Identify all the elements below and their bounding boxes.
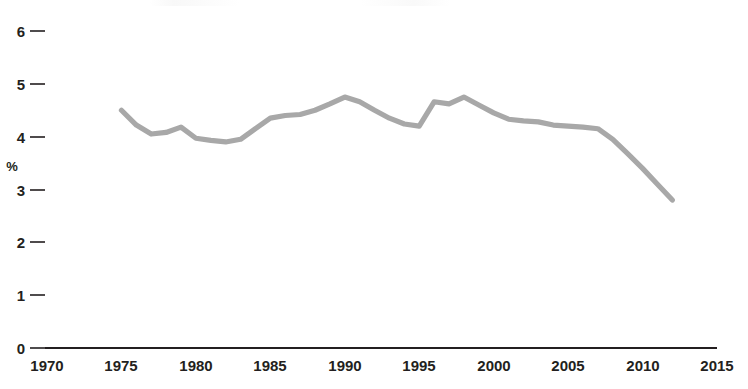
y-tick-label-4: 4 xyxy=(17,129,26,146)
x-tick-label-1995: 1995 xyxy=(402,357,435,374)
x-tick-label-1970: 1970 xyxy=(30,357,63,374)
x-tick-label-2015: 2015 xyxy=(700,357,733,374)
line-chart: 6 5 4 3 2 1 0 % 1970 1975 1980 1985 1990… xyxy=(0,0,748,389)
y-tick-label-3: 3 xyxy=(17,182,25,199)
y-tick-label-5: 5 xyxy=(17,76,25,93)
y-tick-label-1: 1 xyxy=(17,287,25,304)
chart-page: 6 5 4 3 2 1 0 % 1970 1975 1980 1985 1990… xyxy=(0,0,748,389)
x-tick-label-1975: 1975 xyxy=(104,357,137,374)
y-tick-label-0: 0 xyxy=(17,340,25,357)
y-tick-label-6: 6 xyxy=(17,23,25,40)
x-axis-labels: 1970 1975 1980 1985 1990 1995 2000 2005 … xyxy=(30,357,733,374)
y-axis-unit-label: % xyxy=(6,159,18,174)
series-line-percent xyxy=(121,97,672,200)
x-tick-label-1985: 1985 xyxy=(253,357,286,374)
y-axis-ticks xyxy=(30,31,45,348)
x-tick-label-1990: 1990 xyxy=(328,357,361,374)
x-tick-label-2005: 2005 xyxy=(551,357,584,374)
x-tick-label-2010: 2010 xyxy=(626,357,659,374)
y-tick-label-2: 2 xyxy=(17,234,25,251)
x-tick-label-1980: 1980 xyxy=(179,357,212,374)
x-tick-label-2000: 2000 xyxy=(477,357,510,374)
y-axis-labels: 6 5 4 3 2 1 0 xyxy=(17,23,26,357)
